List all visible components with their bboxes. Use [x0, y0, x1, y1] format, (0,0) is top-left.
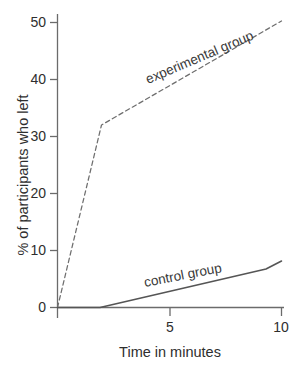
y-tick-label-10: 10	[30, 242, 46, 258]
chart-figure: 0 10 20 30 40 50 5 10 Time in minutes % …	[0, 0, 301, 365]
line-chart-canvas: 0 10 20 30 40 50 5 10 Time in minutes % …	[0, 0, 301, 365]
y-tick-label-50: 50	[30, 14, 46, 30]
y-tick-label-0: 0	[38, 299, 46, 315]
y-axis-title: % of participants who left	[15, 94, 31, 255]
x-axis-title: Time in minutes	[119, 344, 221, 360]
y-tick-label-40: 40	[30, 71, 46, 87]
x-tick-label-10: 10	[273, 319, 289, 335]
y-tick-label-30: 30	[30, 128, 46, 144]
x-tick-label-5: 5	[166, 319, 174, 335]
y-tick-label-20: 20	[30, 185, 46, 201]
